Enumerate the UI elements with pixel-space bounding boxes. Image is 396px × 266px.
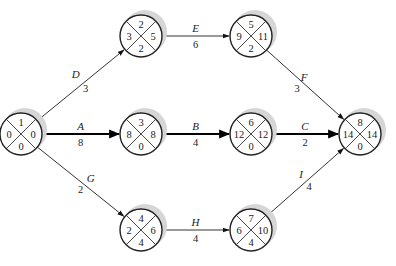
activity-c: C2: [272, 120, 338, 148]
activity-d: D3: [37, 50, 124, 121]
activity-name: A: [76, 120, 84, 132]
node-value-top: 2: [138, 19, 143, 30]
node-value-right: 14: [367, 129, 378, 140]
node-value-right: 8: [150, 129, 155, 140]
activity-duration: 6: [193, 39, 198, 50]
activity-arrow: [37, 147, 123, 216]
node-value-left: 6: [236, 225, 241, 236]
node-value-right: 5: [150, 31, 155, 42]
node-n2: 2352: [120, 10, 167, 57]
node-value-bottom: 0: [248, 141, 253, 152]
node-n3: 59112: [230, 10, 277, 57]
activity-h: H4: [162, 216, 229, 244]
activity-name: C: [301, 120, 309, 132]
node-value-top: 5: [248, 19, 253, 30]
node-value-top: 3: [138, 117, 143, 128]
node-value-top: 4: [138, 213, 144, 224]
activity-duration: 2: [302, 137, 307, 148]
node-n6: 814140: [339, 108, 386, 155]
activity-g: G2: [37, 147, 123, 216]
node-n7: 4264: [120, 204, 167, 251]
node-n4: 3880: [120, 108, 167, 155]
activity-name: D: [71, 68, 80, 80]
node-value-bottom: 2: [138, 43, 143, 54]
activity-duration: 4: [306, 181, 312, 192]
node-n1: 1000: [0, 108, 47, 155]
node-value-left: 8: [126, 129, 131, 140]
activity-duration: 8: [78, 137, 83, 148]
activity-duration: 4: [193, 137, 199, 148]
node-value-bottom: 0: [18, 141, 23, 152]
network-diagram: D3E6F3A8B4C2G2H4I4 100023525911238806121…: [0, 0, 396, 266]
activity-name: E: [191, 22, 199, 34]
node-value-left: 14: [343, 129, 354, 140]
node-value-left: 2: [126, 225, 131, 236]
node-value-left: 12: [234, 129, 245, 140]
node-value-right: 10: [258, 225, 269, 236]
node-value-bottom: 4: [138, 237, 144, 248]
activity-name: F: [300, 71, 308, 83]
edges-layer: D3E6F3A8B4C2G2H4I4: [37, 22, 343, 244]
activity-name: G: [87, 172, 95, 184]
activity-a: A8: [42, 120, 119, 148]
activity-arrow: [267, 149, 344, 217]
node-value-right: 11: [258, 31, 268, 42]
activity-name: B: [192, 120, 199, 132]
node-value-right: 6: [150, 225, 155, 236]
node-value-right: 0: [30, 129, 35, 140]
node-n5: 612120: [230, 108, 277, 155]
node-value-top: 1: [18, 117, 23, 128]
node-value-top: 6: [248, 117, 253, 128]
node-value-top: 7: [248, 213, 253, 224]
activity-name: H: [191, 216, 201, 228]
activity-arrow: [267, 50, 344, 119]
node-n8: 76104: [230, 204, 277, 251]
node-value-top: 8: [357, 117, 362, 128]
activity-duration: 2: [78, 184, 83, 195]
node-value-right: 12: [258, 129, 269, 140]
activity-b: B4: [162, 120, 229, 148]
activity-e: E6: [162, 22, 229, 50]
node-value-left: 9: [236, 31, 241, 42]
node-value-left: 3: [126, 31, 131, 42]
activity-arrow: [37, 50, 124, 121]
node-value-bottom: 0: [138, 141, 143, 152]
activity-f: F3: [267, 50, 344, 119]
activity-duration: 3: [83, 83, 88, 94]
activity-i: I4: [267, 149, 344, 217]
activity-duration: 4: [193, 233, 199, 244]
activity-name: I: [298, 168, 304, 180]
node-value-bottom: 4: [248, 237, 254, 248]
activity-duration: 3: [295, 83, 300, 94]
node-value-left: 0: [6, 129, 11, 140]
node-value-bottom: 0: [357, 141, 362, 152]
node-value-bottom: 2: [248, 43, 253, 54]
